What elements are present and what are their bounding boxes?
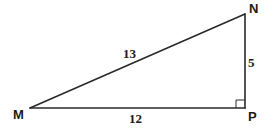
side-mn-hypotenuse <box>30 14 245 108</box>
right-angle-marker <box>236 100 245 108</box>
side-label-np: 5 <box>248 55 255 70</box>
vertex-label-n: N <box>249 1 258 16</box>
vertex-label-p: P <box>248 109 257 124</box>
vertex-label-m: M <box>13 107 24 122</box>
side-label-mn: 13 <box>123 46 137 61</box>
side-label-mp: 12 <box>129 111 142 126</box>
right-triangle-diagram: M N P 13 5 12 <box>0 0 273 133</box>
